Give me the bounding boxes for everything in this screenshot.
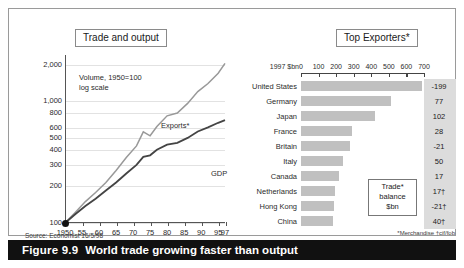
trade-balance-value: 50 [424,156,454,168]
gridline [66,65,225,66]
bar-rect [301,96,391,106]
bar-axis-tick [424,73,425,77]
x-axis-tick [185,222,186,226]
bar-axis-tick [319,73,320,77]
bar-category-label: Germany [235,96,297,108]
source-note: Source: Economist 16/5/98 [25,232,103,239]
y-axis-tick-label: 100 [22,219,62,227]
x-axis-tick [202,222,203,226]
bar-rect [301,186,335,196]
bar-axis-tick [301,73,302,77]
bar-category-label: Japan [235,111,297,123]
bar-category-label: United States [235,81,297,93]
y-axis-tick-label: 300 [22,161,62,169]
bar-axis-tick [371,73,372,77]
bar-category-label: Britain [235,141,297,153]
bar-axis-tick-label: 700 [414,63,434,71]
figure-number: Figure 9.9 [22,244,78,256]
trade-balance-value: 40† [424,216,454,228]
gridline [66,150,225,151]
left-chart-title: Trade and output [75,29,167,47]
right-chart-title: Top Exporters* [336,29,418,47]
bar-category-label: China [235,216,297,228]
trade-balance-value: 17† [424,186,454,198]
x-axis-tick [117,222,118,226]
bar-rect [301,111,375,121]
x-axis-tick [226,222,227,226]
bar-category-label: Hong Kong [235,201,297,213]
figure-container: Volume, 1950=100 log scale Exports* GDP … [0,0,464,268]
bar-rect [301,171,339,181]
gridline [66,128,225,129]
gridline [66,223,225,224]
gridline [66,113,225,114]
note-line-1: Volume, 1950=100 [79,73,142,83]
y-axis-tick-label: 200 [22,182,62,190]
line-chart-note: Volume, 1950=100 log scale [79,73,142,92]
y-axis-tick-label: 400 [22,146,62,154]
bar-category-label: Netherlands [235,186,297,198]
bar-rect [301,201,334,211]
trade-balance-value: -21 [424,141,454,153]
gridline [66,165,225,166]
y-axis-tick-label: 800 [22,109,62,117]
trade-balance-value: 77 [424,96,454,108]
bar-axis-tick [336,73,337,77]
y-axis-tick-label: 500 [22,134,62,142]
bar-category-label: Italy [235,156,297,168]
bar-rect [301,126,352,136]
bar-rect [301,81,422,91]
trade-balance-value: 17 [424,171,454,183]
bar-axis-tick [406,73,407,77]
bar-rect [301,141,350,151]
bar-category-label: France [235,126,297,138]
x-axis-tick [151,222,152,226]
bar-rect [301,156,343,166]
x-axis-tick [83,222,84,226]
left-line-chart: Volume, 1950=100 log scale Exports* GDP … [23,51,228,231]
series-label-exports: Exports* [161,121,189,130]
bar-rect [301,216,333,226]
y-axis-tick-label: 2,000 [22,61,62,69]
figure-caption: Figure 9.9 World trade growing faster th… [8,240,456,260]
gridline [66,101,225,102]
figure-caption-text: World trade growing faster than output [85,244,298,256]
trade-balance-value: 28 [424,126,454,138]
right-bar-chart: 1997 $bn Trade* balance $bn *Merchandise… [235,51,464,236]
series-label-gdp: GDP [211,169,227,178]
bar-category-label: Canada [235,171,297,183]
gridline [66,186,225,187]
note-line-2: log scale [79,83,142,93]
x-axis-tick [100,222,101,226]
trade-balance-value: -21† [424,201,454,213]
x-axis-tick [168,222,169,226]
chart-panel: Volume, 1950=100 log scale Exports* GDP … [8,8,456,236]
y-axis-tick-label: 1,000 [22,97,62,105]
x-axis-tick-label: 97 [213,229,237,237]
y-axis-tick-label: 600 [22,124,62,132]
origin-marker-dot [62,220,69,227]
trade-balance-value: -199 [424,81,454,93]
x-axis-tick [134,222,135,226]
trade-balance-value: 102 [424,111,454,123]
footnote: *Merchandise †cif/fob [397,230,455,236]
x-axis-tick [219,222,220,226]
bar-axis-tick [354,73,355,77]
gridline [66,138,225,139]
bar-axis-tick [389,73,390,77]
